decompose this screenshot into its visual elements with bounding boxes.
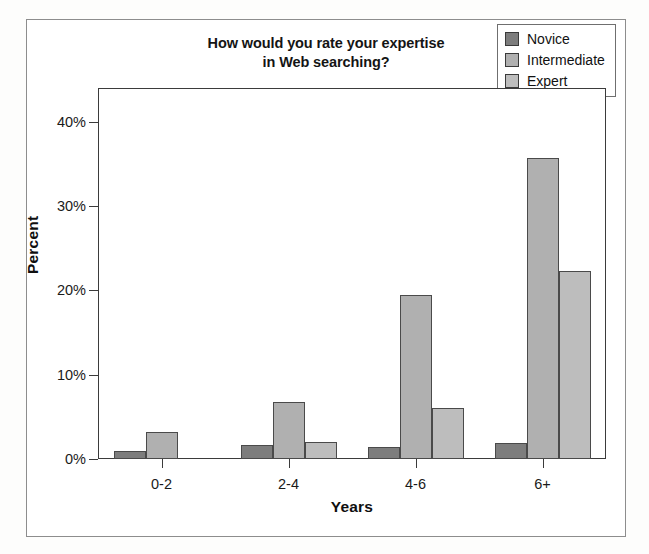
x-axis-tick-label: 4-6 xyxy=(405,476,426,492)
legend-label-intermediate: Intermediate xyxy=(527,52,605,68)
y-axis-tick xyxy=(89,206,98,207)
legend-swatch-novice xyxy=(505,32,519,46)
plot-area: 0%10%20%30%40%0-22-44-66+ xyxy=(98,88,606,459)
chart-title-line-2: in Web searching? xyxy=(176,53,476,72)
y-axis-tick xyxy=(89,375,98,376)
x-axis-tick-label: 0-2 xyxy=(151,476,172,492)
bar-intermediate-2-4 xyxy=(273,402,305,459)
bar-novice-6+ xyxy=(495,443,527,459)
bar-expert-6+ xyxy=(559,271,591,459)
legend-item-intermediate: Intermediate xyxy=(505,51,605,69)
x-axis-title: Years xyxy=(98,498,606,516)
y-axis-tick-label: 30% xyxy=(57,198,86,214)
x-axis-tick xyxy=(543,459,544,468)
legend-item-novice: Novice xyxy=(505,30,605,48)
x-axis-tick-label: 6+ xyxy=(534,476,551,492)
y-axis-tick xyxy=(89,459,98,460)
chart-title: How would you rate your expertise in Web… xyxy=(176,34,476,72)
figure-caption xyxy=(30,541,590,553)
y-axis-tick-label: 10% xyxy=(57,367,86,383)
legend-swatch-expert xyxy=(505,74,519,88)
y-axis-tick xyxy=(89,290,98,291)
chart-legend: Novice Intermediate Expert xyxy=(497,24,616,97)
x-axis-tick-label: 2-4 xyxy=(278,476,299,492)
x-axis-tick xyxy=(416,459,417,468)
legend-swatch-intermediate xyxy=(505,53,519,67)
bar-intermediate-0-2 xyxy=(146,432,178,459)
bar-expert-4-6 xyxy=(432,408,464,459)
bar-novice-0-2 xyxy=(114,451,146,459)
x-axis-tick xyxy=(289,459,290,468)
bar-intermediate-6+ xyxy=(527,158,559,459)
bar-intermediate-4-6 xyxy=(400,295,432,459)
x-axis-tick xyxy=(162,459,163,468)
bar-novice-2-4 xyxy=(241,445,273,459)
legend-label-novice: Novice xyxy=(527,31,570,47)
chart-title-line-1: How would you rate your expertise xyxy=(176,34,476,53)
y-axis-tick-label: 20% xyxy=(57,282,86,298)
bar-novice-4-6 xyxy=(368,447,400,459)
legend-label-expert: Expert xyxy=(527,73,567,89)
y-axis-tick xyxy=(89,122,98,123)
bar-expert-2-4 xyxy=(305,442,337,459)
y-axis-title: Percent xyxy=(24,216,42,274)
y-axis-tick-label: 40% xyxy=(57,114,86,130)
scanned-page: How would you rate your expertise in Web… xyxy=(0,0,649,554)
y-axis-tick-label: 0% xyxy=(65,451,86,467)
